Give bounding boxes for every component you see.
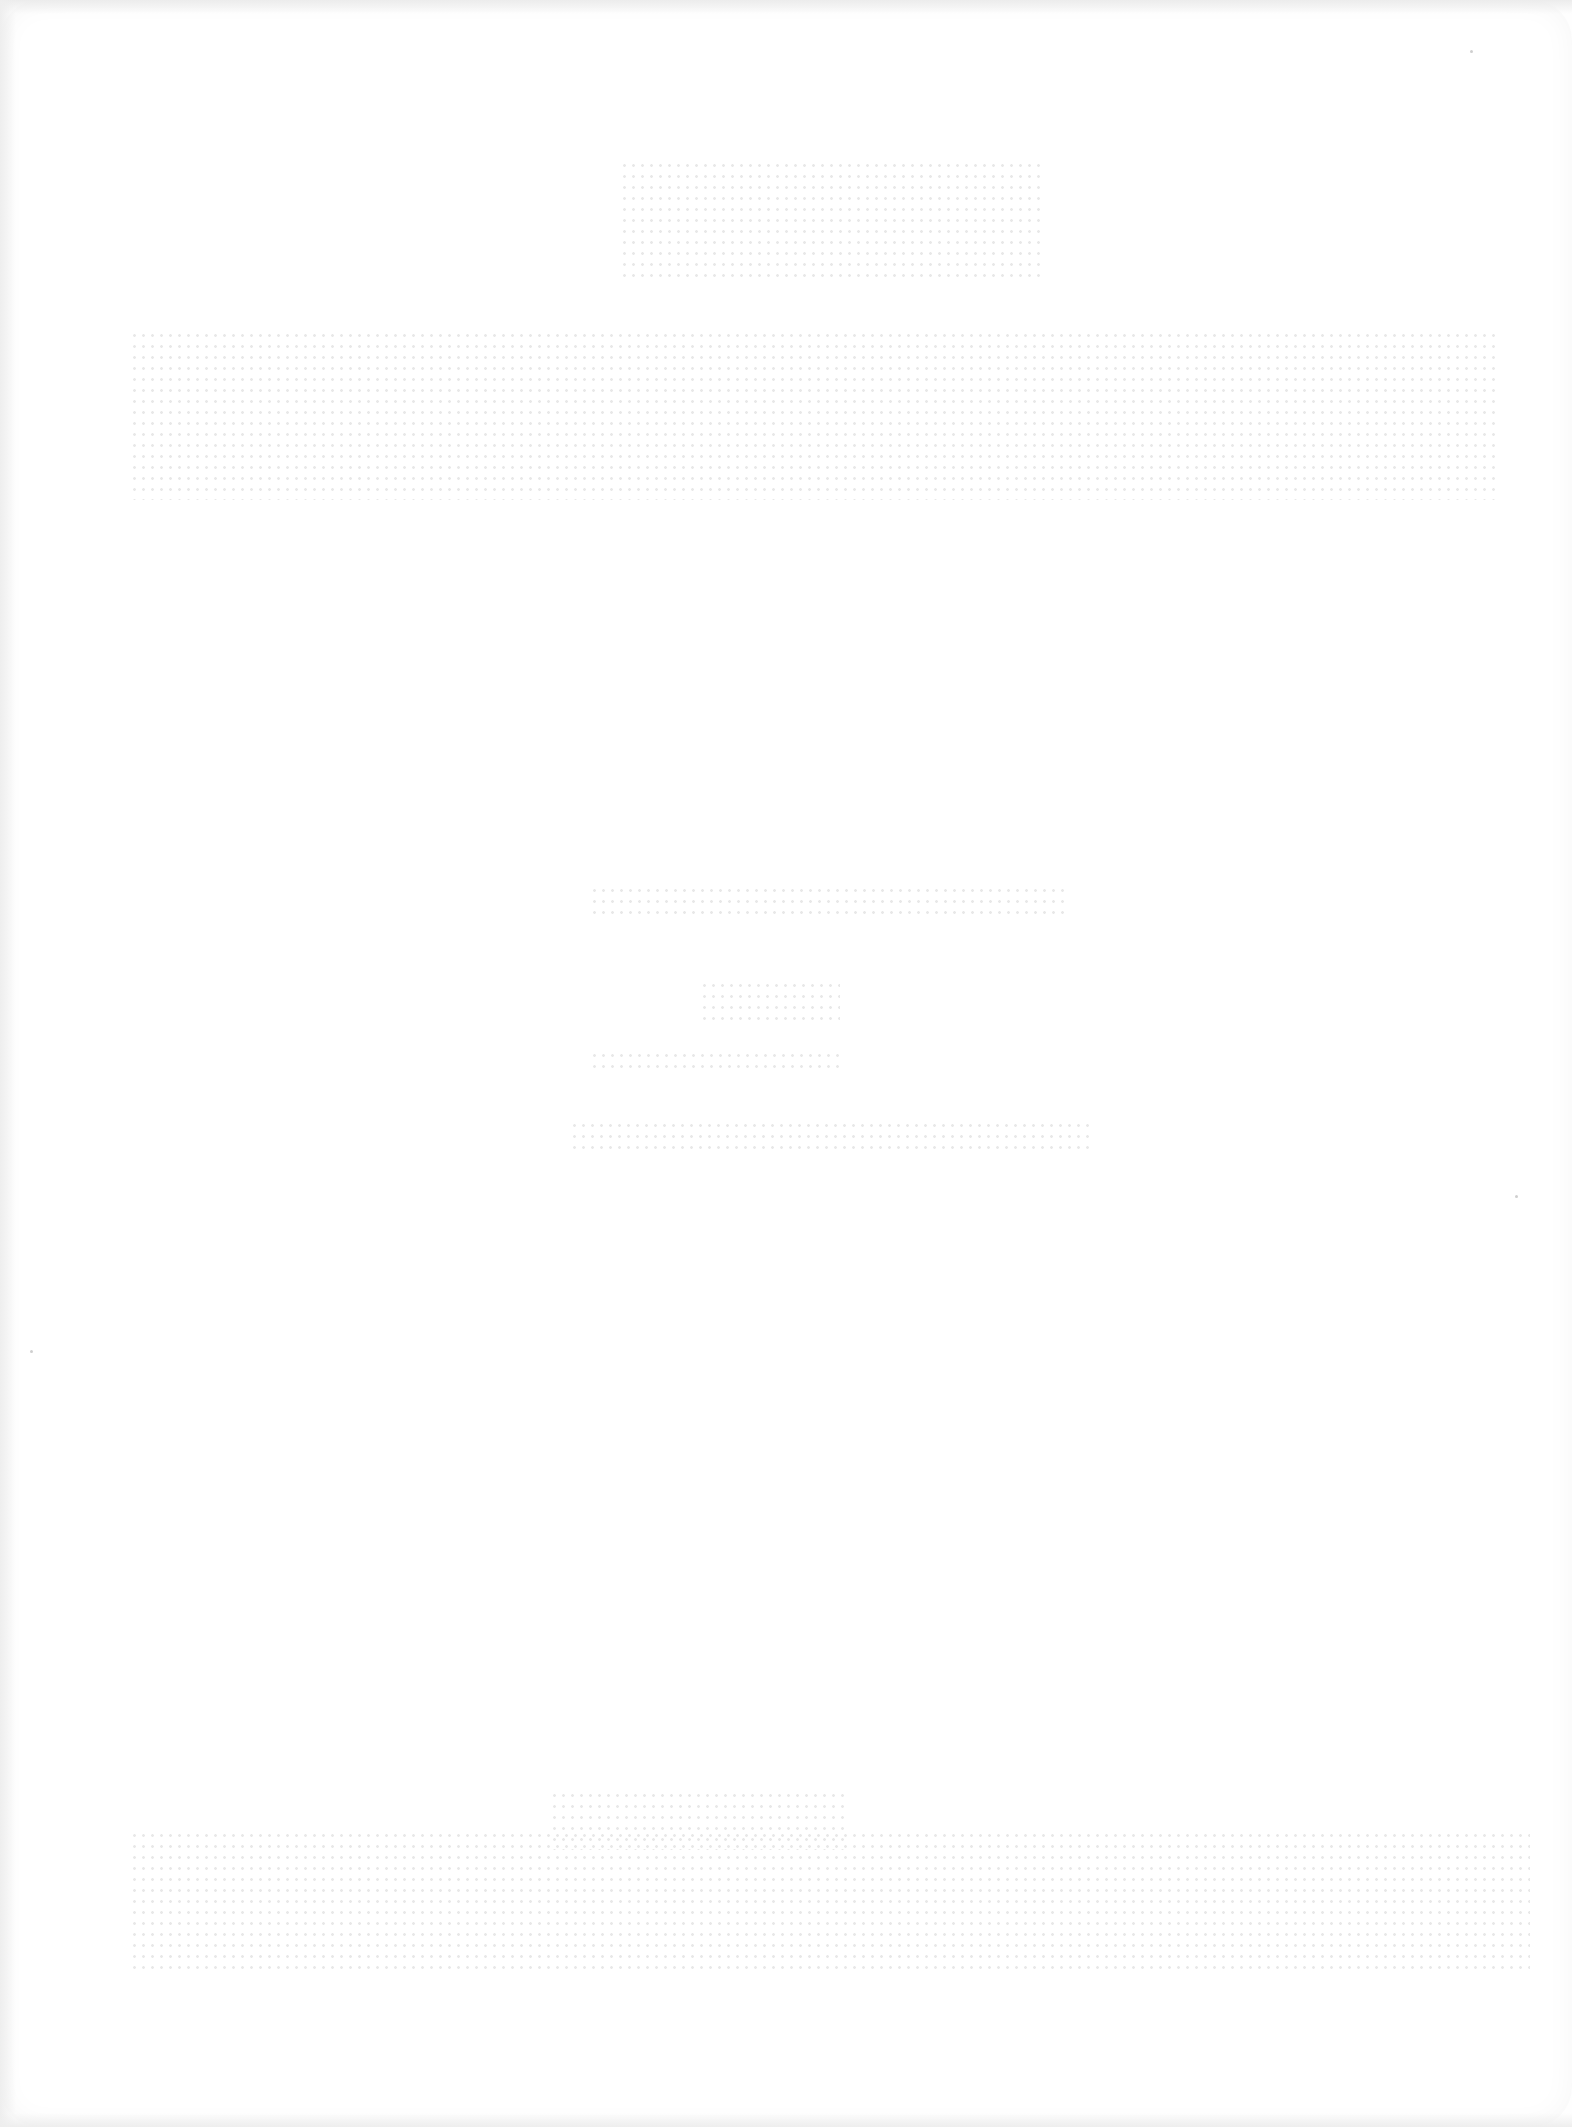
- page-edge-left: [0, 0, 16, 2127]
- speck-mark: [1470, 50, 1473, 53]
- page-edge-top: [0, 0, 1572, 14]
- subtitle-line-4-faded: [570, 1120, 1090, 1150]
- footer-title-faded: [130, 1830, 1530, 1970]
- main-title-faded: [130, 330, 1500, 500]
- top-heading-faded: [620, 160, 1040, 280]
- speck-mark: [30, 1350, 33, 1353]
- subtitle-line-3-faded: [590, 1050, 840, 1075]
- page-edge-bottom: [0, 2113, 1572, 2127]
- speck-mark: [1515, 1195, 1518, 1198]
- subtitle-line-2-faded: [700, 980, 840, 1020]
- scanned-page: [0, 0, 1572, 2127]
- subtitle-line-1-faded: [590, 885, 1070, 915]
